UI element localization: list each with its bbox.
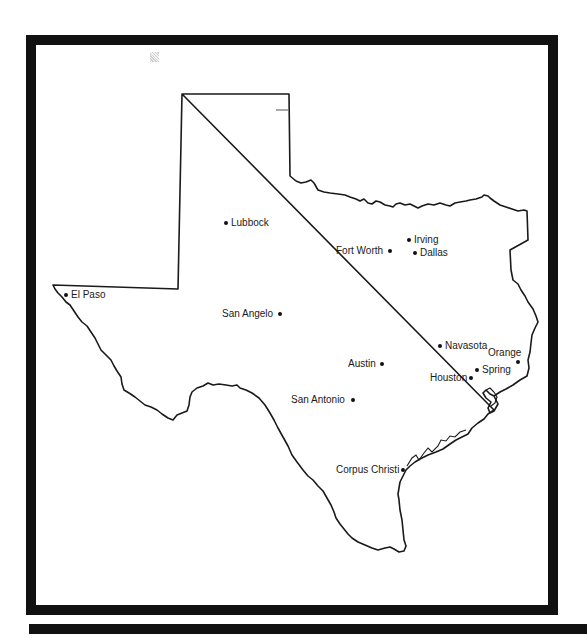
city-label: Navasota: [445, 340, 487, 352]
city-label: Houston: [430, 372, 467, 384]
city-label: Spring: [482, 364, 511, 376]
city-dot-icon: [401, 468, 405, 472]
state-border: [53, 94, 538, 552]
texas-outline: [0, 0, 587, 638]
city-dot-icon: [380, 362, 384, 366]
city-label: Corpus Christi: [336, 464, 399, 476]
city-label: El Paso: [71, 289, 105, 301]
city-label: Orange: [488, 347, 521, 359]
city-label: Fort Worth: [336, 245, 383, 257]
city-dot-icon: [413, 251, 417, 255]
city-label: Lubbock: [231, 217, 269, 229]
city-label: San Antonio: [291, 394, 345, 406]
city-dot-icon: [407, 238, 411, 242]
city-dot-icon: [516, 360, 520, 364]
city-dot-icon: [438, 344, 442, 348]
city-dot-icon: [469, 376, 473, 380]
city-dot-icon: [475, 368, 479, 372]
city-dot-icon: [278, 312, 282, 316]
city-label: San Angelo: [222, 308, 273, 320]
city-label: Austin: [348, 358, 376, 370]
city-label: Dallas: [420, 247, 448, 259]
city-dot-icon: [64, 293, 68, 297]
city-dot-icon: [224, 221, 228, 225]
city-dot-icon: [351, 398, 355, 402]
city-label: Irving: [414, 234, 438, 246]
city-dot-icon: [388, 249, 392, 253]
